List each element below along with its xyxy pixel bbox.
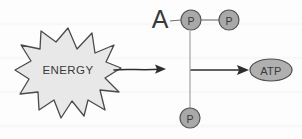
bond-a-to-phosphate-1 <box>170 20 181 21</box>
energy-burst-label: ENERGY <box>43 64 94 76</box>
phosphate-3: P <box>180 108 200 128</box>
diagram-canvas: ENERGY A P P P <box>0 0 302 139</box>
phosphate-2-label: P <box>225 15 232 27</box>
phosphate-3-label: P <box>186 113 193 125</box>
arrow-to-atp <box>191 65 249 75</box>
atp-molecule: ATP <box>250 59 292 81</box>
phosphate-2: P <box>219 10 239 30</box>
energy-burst-group: ENERGY <box>15 28 121 118</box>
energy-to-reaction-arrow <box>114 65 166 74</box>
phosphate-1-label: P <box>187 15 194 27</box>
phosphate-1: P <box>181 10 201 30</box>
atp-label: ATP <box>260 65 281 77</box>
energy-arrow-shaft <box>114 69 160 70</box>
atp-synthesis-diagram: ENERGY A P P P <box>0 0 302 139</box>
adenosine-label: A <box>152 5 169 33</box>
